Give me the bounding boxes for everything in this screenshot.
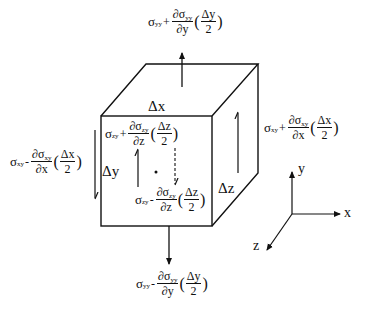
derivative-fraction: ∂σxy ∂x <box>31 148 52 175</box>
half-fraction: Δx 2 <box>317 114 333 141</box>
x-axis-label: x <box>344 206 351 220</box>
y-axis-label: y <box>298 162 305 176</box>
cube-right-face <box>212 64 258 226</box>
dz-label: Δz <box>218 181 234 196</box>
dx-label: Δx <box>148 99 165 114</box>
half-fraction: Δx 2 <box>60 148 76 175</box>
left-shear-expression: σxy - ∂σxy ∂x ( Δx 2 ) <box>10 148 82 175</box>
derivative-fraction: ∂σzy ∂z <box>128 120 149 147</box>
back-shear-expression: σzy - ∂σzy ∂z ( Δz 2 ) <box>135 186 205 213</box>
derivative-fraction: ∂σxy ∂x <box>288 114 309 141</box>
front-shear-expression: σzy + ∂σzy ∂z ( Δz 2 ) <box>105 120 178 147</box>
top-stress-expression: σyy + ∂σyy ∂y ( Δy 2 ) <box>148 8 223 35</box>
derivative-fraction: ∂σzy ∂z <box>156 186 177 213</box>
half-fraction: Δz 2 <box>157 120 172 147</box>
half-fraction: Δz 2 <box>184 186 199 213</box>
bottom-stress-expression: σyy - ∂σyy ∂y ( Δy 2 ) <box>136 270 208 297</box>
half-fraction: Δy 2 <box>201 8 217 35</box>
stress-cube-diagram: Δx Δy Δz y x z σyy + ∂σyy ∂y ( Δy 2 ) σy… <box>0 0 365 315</box>
center-point <box>155 171 158 174</box>
coordinate-axes <box>267 172 340 250</box>
cube-top-face <box>101 64 258 116</box>
derivative-fraction: ∂σyy ∂y <box>157 270 178 297</box>
half-fraction: Δy 2 <box>186 270 202 297</box>
dy-label: Δy <box>102 164 119 179</box>
right-shear-expression: σxy + ∂σxy ∂x ( Δx 2 ) <box>264 114 339 141</box>
derivative-fraction: ∂σyy ∂y <box>172 8 193 35</box>
z-axis-label: z <box>253 239 259 253</box>
z-axis-arrow <box>267 214 292 250</box>
